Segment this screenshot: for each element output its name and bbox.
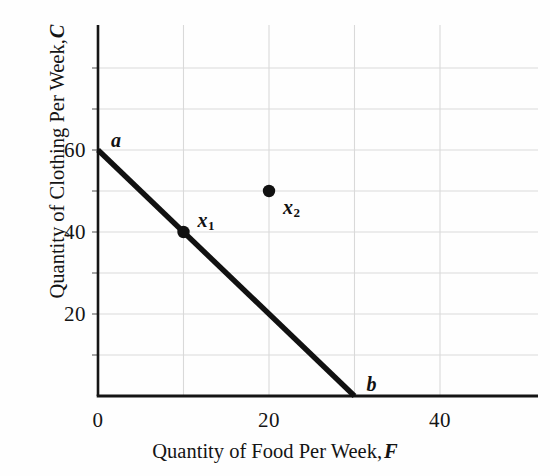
y-axis-title-text: Quantity of Clothing Per Week, bbox=[46, 39, 68, 298]
x-tick-label-0: 0 bbox=[76, 410, 120, 431]
plot-svg bbox=[98, 31, 538, 396]
point-a-label: a bbox=[111, 130, 121, 150]
plot-area bbox=[98, 31, 538, 396]
y-axis-symbol: C bbox=[46, 25, 68, 40]
y-tick-label-60: 60 bbox=[46, 140, 86, 161]
x-axis-symbol: F bbox=[382, 440, 398, 462]
point-label-x2: x2 bbox=[283, 197, 300, 217]
x-tick-label-20: 20 bbox=[247, 410, 291, 431]
y-tick-label-20: 20 bbox=[46, 304, 86, 325]
data-point-x2[interactable] bbox=[263, 185, 275, 197]
data-point-x1[interactable] bbox=[177, 226, 189, 238]
point-b-label: b bbox=[367, 374, 377, 394]
x-axis-title: Quantity of Food Per Week,F bbox=[0, 440, 550, 463]
x-axis-title-text: Quantity of Food Per Week, bbox=[152, 440, 382, 462]
point-label-x1: x1 bbox=[198, 210, 215, 230]
y-tick-label-40: 40 bbox=[46, 222, 86, 243]
y-axis-title: Quantity of Clothing Per Week,C bbox=[46, 0, 69, 327]
chart-figure: Quantity of Clothing Per Week,C Quantity… bbox=[0, 0, 550, 476]
x-tick-label-40: 40 bbox=[418, 410, 462, 431]
